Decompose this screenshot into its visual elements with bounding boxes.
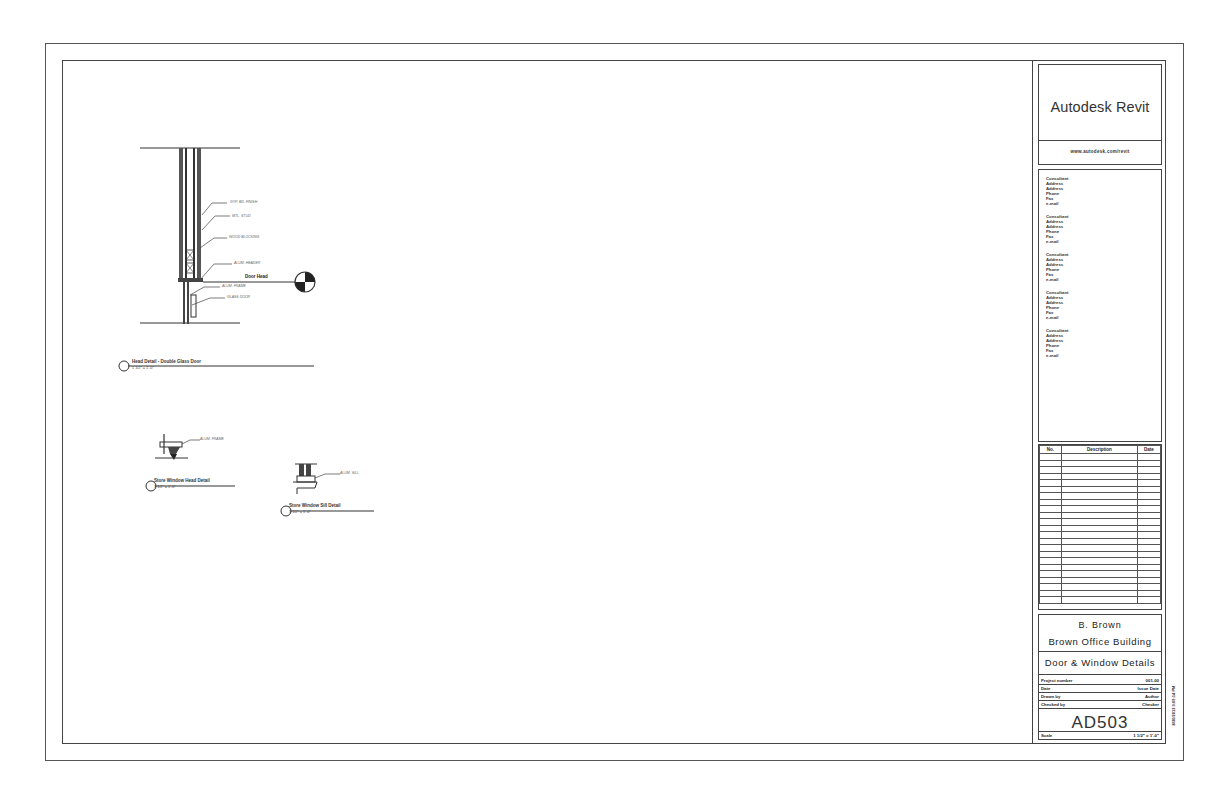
view-title[interactable]: Head Detail - Double Glass Door <box>132 359 201 364</box>
project-name: Brown Office Building <box>1039 636 1161 647</box>
info-row-date: Date Issue Date <box>1039 685 1161 693</box>
print-timestamp: 8/30/2013 3:09:14 PM <box>1168 678 1178 738</box>
note-label: ALUM. FRAME <box>222 284 246 288</box>
consultant-entry: ConsultantAddressAddressPhoneFaxe-mail <box>1046 214 1068 244</box>
view-scale: 1 1/2" = 1'-0" <box>154 485 176 489</box>
title-block: Autodesk Revit www.autodesk.com/revit Co… <box>1032 60 1166 744</box>
consultant-entry: ConsultantAddressAddressPhoneFaxe-mail <box>1046 290 1068 320</box>
info-row-project-number: Project number 001-00 <box>1039 677 1161 685</box>
consultant-entry: ConsultantAddressAddressPhoneFaxe-mail <box>1046 176 1068 206</box>
sheet-number: AD503 <box>1039 713 1161 733</box>
note-label: WOOD BLOCKING <box>229 235 259 239</box>
view-title[interactable]: Store Window Sill Detail <box>289 503 340 508</box>
logo-panel: Autodesk Revit www.autodesk.com/revit <box>1038 64 1162 165</box>
note-label: MTL. STUD <box>232 214 250 218</box>
table-cell <box>1061 597 1137 604</box>
column-header-description: Description <box>1061 446 1137 454</box>
info-row-drawn-by: Drawn by Author <box>1039 693 1161 701</box>
level-name: Door Head <box>245 274 268 279</box>
view-scale: 1 1/2" = 1'-0" <box>289 510 311 514</box>
note-label: ALUM. FRAME <box>200 437 224 441</box>
consultant-entry: ConsultantAddressAddressPhoneFaxe-mail <box>1046 328 1068 358</box>
table-cell <box>1040 597 1062 604</box>
divider <box>1039 140 1161 141</box>
consultants-panel: ConsultantAddressAddressPhoneFaxe-mail C… <box>1038 169 1162 442</box>
note-label: ALUM. SILL <box>340 471 359 475</box>
autodesk-revit-logo: Autodesk Revit <box>1039 99 1161 115</box>
view-scale: 1 1/2" = 1'-0" <box>132 366 154 370</box>
sheet-title-box: Door & Window Details <box>1039 651 1161 675</box>
revision-table: No. Description Date <box>1039 445 1161 604</box>
revision-schedule: No. Description Date <box>1038 444 1162 610</box>
note-label: GYP. BD. FINISH <box>230 200 257 204</box>
column-header-date: Date <box>1138 446 1161 454</box>
info-row-checked-by: Checked by Checker <box>1039 701 1161 709</box>
logo-subtitle: www.autodesk.com/revit <box>1039 149 1161 154</box>
info-row-scale: Scale 1 1/2" = 1'-0" <box>1039 731 1161 739</box>
table-row <box>1040 597 1161 604</box>
consultant-entry: ConsultantAddressAddressPhoneFaxe-mail <box>1046 252 1068 282</box>
table-cell <box>1138 597 1161 604</box>
note-label: ALUM. HEADER <box>234 261 260 265</box>
client-name: B. Brown <box>1039 620 1161 630</box>
view-title[interactable]: Store Window Head Detail <box>154 478 210 483</box>
sheet-title: Door & Window Details <box>1039 657 1161 668</box>
column-header-no: No. <box>1040 446 1062 454</box>
window-sill-detail-drawing[interactable] <box>285 460 345 500</box>
project-info-panel: B. Brown Brown Office Building Door & Wi… <box>1038 614 1162 740</box>
note-label: GLASS DOOR <box>227 295 250 299</box>
